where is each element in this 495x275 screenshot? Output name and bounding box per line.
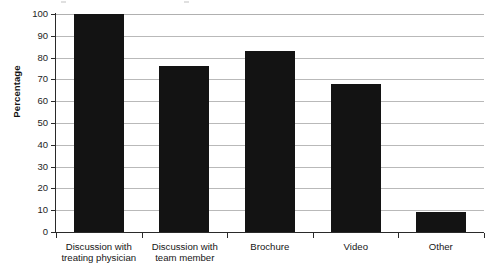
- y-tick-label: 60: [22, 96, 48, 106]
- x-tick-mark: [142, 233, 143, 238]
- y-tick-label: 50: [22, 118, 48, 128]
- y-tick-mark: [51, 123, 56, 124]
- y-tick-mark: [51, 188, 56, 189]
- x-axis-line: [56, 232, 484, 233]
- y-tick-mark: [51, 145, 56, 146]
- bar: [331, 84, 381, 232]
- y-tick-label: 80: [22, 53, 48, 63]
- x-tick-mark: [227, 233, 228, 238]
- x-tick-mark: [398, 233, 399, 238]
- y-tick-mark: [51, 58, 56, 59]
- x-tick-mark: [484, 233, 485, 238]
- y-tick-mark: [51, 101, 56, 102]
- x-tick-mark: [56, 233, 57, 238]
- bar-chart: Percentage 1009080706050403020100 Discus…: [0, 0, 495, 275]
- y-tick-label: 20: [22, 183, 48, 193]
- y-tick-label: 40: [22, 140, 48, 150]
- y-tick-label: 90: [22, 31, 48, 41]
- y-tick-label: 100: [22, 9, 48, 19]
- y-tick-mark: [51, 210, 56, 211]
- x-axis-category-label-line: team member: [134, 252, 236, 263]
- scan-artifact: [184, 1, 189, 3]
- bar: [245, 51, 295, 232]
- y-tick-mark: [51, 79, 56, 80]
- bar: [159, 66, 209, 232]
- y-tick-label: 10: [22, 205, 48, 215]
- y-tick-mark: [51, 167, 56, 168]
- y-axis-title: Percentage: [11, 32, 22, 152]
- x-tick-mark: [313, 233, 314, 238]
- y-tick-label: 30: [22, 162, 48, 172]
- x-axis-category-label: Other: [390, 241, 492, 252]
- y-tick-mark: [51, 36, 56, 37]
- scan-artifact: [61, 1, 66, 3]
- x-axis-category-label-line: Other: [390, 241, 492, 252]
- y-tick-label: 70: [22, 74, 48, 84]
- bar: [416, 212, 466, 232]
- y-tick-label: 0: [22, 227, 48, 237]
- bar: [74, 14, 124, 232]
- y-tick-mark: [51, 14, 56, 15]
